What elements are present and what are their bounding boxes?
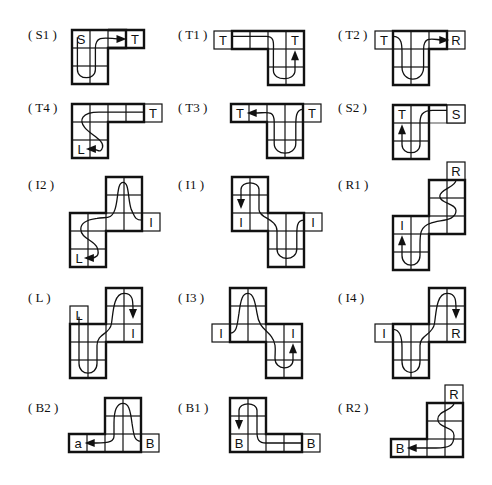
route-path xyxy=(414,403,454,448)
cell-letter: B xyxy=(396,441,405,456)
arrow-icon xyxy=(407,444,417,452)
panel-r2: RB xyxy=(0,0,492,485)
cell-letter: R xyxy=(449,387,458,402)
